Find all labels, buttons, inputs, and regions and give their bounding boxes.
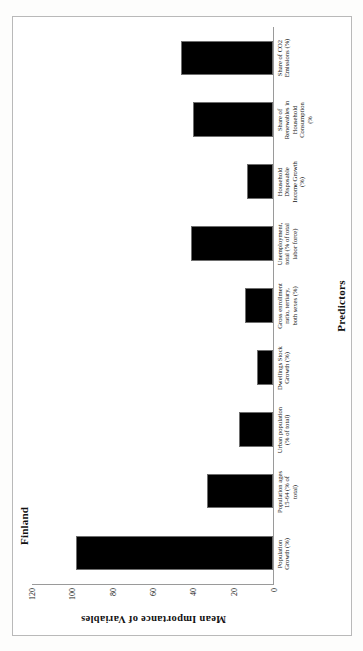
y-axis-tick: 120 xyxy=(27,588,36,600)
x-axis-category-label: Population Growth (%) xyxy=(274,523,334,585)
y-axis-tick-labels: 020406080100120 xyxy=(32,585,274,611)
bar-chart-figure: Finland Mean Importance of Variables 020… xyxy=(12,16,352,636)
y-axis-tick: 20 xyxy=(229,588,238,596)
bar xyxy=(246,164,272,199)
bar-slot xyxy=(32,150,273,212)
bar-series xyxy=(32,27,273,584)
bar-slot xyxy=(32,522,273,584)
bar xyxy=(238,411,272,446)
bar-slot xyxy=(32,336,273,398)
x-axis-category-label: Urban population (% of total) xyxy=(274,399,334,461)
plot-area xyxy=(32,27,274,585)
bar xyxy=(190,226,272,261)
x-axis-category-label: Share of Renewables in Household Consump… xyxy=(274,89,334,151)
x-axis-category-label: Household Disposable Income Growth (%) xyxy=(274,151,334,213)
y-axis-title: Mean Importance of Variables xyxy=(32,611,274,627)
bar xyxy=(244,288,272,323)
bar xyxy=(180,40,272,75)
bar xyxy=(192,102,272,137)
x-axis-category-label: Unemployment, total (% of total labor fo… xyxy=(274,213,334,275)
x-axis-title: Predictors xyxy=(335,27,347,627)
x-axis-category-label: Population ages 15-64 (% of total) xyxy=(274,461,334,523)
x-axis-category-label: Dwellings Stock Growth (%) xyxy=(274,337,334,399)
chart-frame: Finland Mean Importance of Variables 020… xyxy=(12,16,352,636)
bar-slot xyxy=(32,398,273,460)
y-axis-tick: 40 xyxy=(188,588,197,596)
bar-slot xyxy=(32,88,273,150)
plot-row: Mean Importance of Variables 02040608010… xyxy=(32,27,274,627)
y-axis-title-text: Mean Importance of Variables xyxy=(80,613,225,624)
bar-slot xyxy=(32,212,273,274)
y-axis-tick: 80 xyxy=(108,588,117,596)
y-axis-tick: 100 xyxy=(67,588,76,600)
bar-slot xyxy=(32,274,273,336)
bar-slot xyxy=(32,460,273,522)
bar xyxy=(76,535,273,570)
x-axis-category-label: Share of CO2 Emissions (%) xyxy=(274,27,334,89)
bar xyxy=(206,473,272,508)
x-axis-category-label: Gross enrollment ratio, tertiary, both s… xyxy=(274,275,334,337)
bar xyxy=(256,350,272,385)
scanned-page: Finland Mean Importance of Variables 020… xyxy=(0,0,363,651)
x-axis-category-labels: Population Growth (%)Population ages 15-… xyxy=(274,27,334,627)
bar-slot xyxy=(32,26,273,88)
chart-title: Finland xyxy=(19,27,30,627)
figure-rotated-wrapper: Finland Mean Importance of Variables 020… xyxy=(12,16,352,636)
y-axis-tick: 0 xyxy=(269,588,278,592)
y-axis-tick: 60 xyxy=(148,588,157,596)
